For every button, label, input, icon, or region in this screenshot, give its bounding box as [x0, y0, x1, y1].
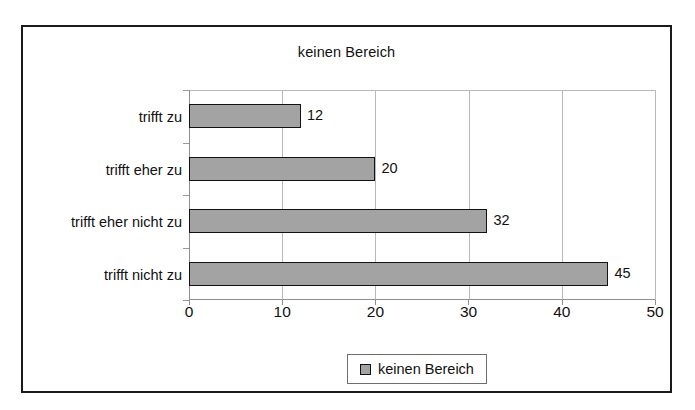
- y-axis-label-1: trifft eher zu: [106, 157, 182, 183]
- bar-trifft-eher-zu[interactable]: [189, 157, 375, 181]
- legend-swatch-icon: [360, 364, 371, 375]
- bar-group-1: 20: [189, 143, 655, 196]
- bar-trifft-nicht-zu[interactable]: [189, 262, 608, 286]
- plot-baseline: [189, 299, 655, 300]
- x-axis-label-20: 20: [367, 303, 384, 321]
- x-axis-label-10: 10: [274, 303, 291, 321]
- chart-legend[interactable]: keinen Bereich: [347, 354, 487, 384]
- x-axis-label-40: 40: [553, 303, 570, 321]
- bar-trifft-eher-nicht-zu[interactable]: [189, 209, 487, 233]
- chart-frame: keinen Bereich trifft zu trifft eher zu …: [21, 25, 672, 393]
- gridline-50: [655, 90, 656, 300]
- bar-value-2: 32: [494, 207, 510, 233]
- y-axis-label-0: trifft zu: [139, 104, 182, 130]
- x-axis-label-50: 50: [646, 303, 663, 321]
- bar-group-2: 32: [189, 195, 655, 248]
- y-axis-label-3: trifft nicht zu: [104, 262, 182, 288]
- x-axis-label-30: 30: [460, 303, 477, 321]
- y-axis-label-2: trifft eher nicht zu: [71, 209, 182, 235]
- x-axis-label-0: 0: [185, 303, 194, 321]
- plot-area: 12 20 32 45: [189, 90, 655, 300]
- chart-title: keinen Bereich: [23, 44, 670, 60]
- x-axis-labels: 0 10 20 30 40 50: [189, 303, 655, 329]
- bar-group-3: 45: [189, 248, 655, 301]
- bar-group-0: 12: [189, 90, 655, 143]
- bar-trifft-zu[interactable]: [189, 104, 301, 128]
- bar-value-1: 20: [382, 155, 398, 181]
- bar-value-3: 45: [615, 260, 631, 286]
- y-axis-labels: trifft zu trifft eher zu trifft eher nic…: [23, 90, 182, 300]
- bar-value-0: 12: [307, 102, 323, 128]
- legend-label: keinen Bereich: [378, 361, 474, 377]
